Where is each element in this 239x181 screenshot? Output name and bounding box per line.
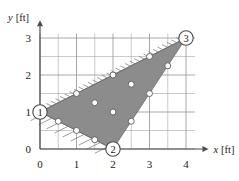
hatch-mark <box>79 138 92 145</box>
nodal-point <box>147 91 153 97</box>
x-axis-title: x[ft] <box>212 144 234 155</box>
nodal-point <box>128 118 134 124</box>
hatch-mark <box>65 94 70 97</box>
node-marker-label: 2 <box>110 144 115 155</box>
y-tick-label: 3 <box>26 32 32 44</box>
hatch-mark <box>158 47 163 50</box>
node-marker-label: 1 <box>37 107 42 118</box>
hatch-mark <box>125 64 130 67</box>
x-tick-label: 0 <box>37 158 43 170</box>
y-tick-label: 1 <box>26 106 32 118</box>
x-tick-label: 2 <box>110 158 116 170</box>
hatch-mark <box>134 59 139 62</box>
hatch-mark <box>46 103 51 106</box>
hatch-mark <box>130 61 135 64</box>
nodal-point <box>74 91 80 97</box>
hatch-mark <box>71 134 84 141</box>
x-tick-label: 3 <box>147 158 153 170</box>
hatch-mark <box>60 96 65 99</box>
hatch-mark <box>153 49 158 52</box>
hatch-mark <box>102 75 107 78</box>
nodal-point <box>74 128 80 134</box>
nodal-point <box>92 137 98 143</box>
hatch-mark <box>97 78 102 81</box>
x-tick-label: 4 <box>183 158 189 170</box>
y-tick-label: 0 <box>26 143 32 155</box>
x-axis-arrowhead <box>202 146 208 152</box>
triangular-element-plot: 012340123x[ft]y[ft]123 <box>0 0 239 181</box>
nodal-point <box>92 100 98 106</box>
node-marker-label: 3 <box>183 33 188 44</box>
y-axis-arrowhead <box>37 20 43 26</box>
hatch-mark <box>93 80 98 83</box>
nodal-point <box>110 109 116 115</box>
hatch-mark <box>120 66 125 69</box>
nodal-point <box>147 54 153 60</box>
nodal-point <box>55 118 61 124</box>
x-tick-label: 1 <box>74 158 80 170</box>
nodal-point <box>110 72 116 78</box>
hatch-mark <box>116 68 121 71</box>
hatch-mark <box>162 45 167 48</box>
hatch-mark <box>79 87 84 90</box>
y-axis-title: y[ft] <box>7 12 29 23</box>
hatch-mark <box>55 126 68 133</box>
y-tick-label: 2 <box>26 69 32 81</box>
nodal-point <box>128 81 134 87</box>
hatch-mark <box>88 82 93 85</box>
figure-container: 012340123x[ft]y[ft]123 <box>0 0 239 181</box>
hatch-mark <box>87 143 100 150</box>
hatch-mark <box>171 40 176 43</box>
hatch-mark <box>83 85 88 88</box>
hatch-mark <box>51 101 56 104</box>
nodal-point <box>165 63 171 69</box>
